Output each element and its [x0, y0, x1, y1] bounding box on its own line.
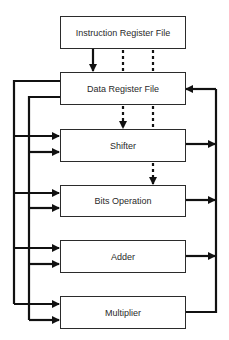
data-register-file-block: Data Register File: [60, 72, 186, 105]
architecture-diagram: Instruction Register File Data Register …: [0, 0, 229, 340]
instruction-register-file-block: Instruction Register File: [60, 16, 186, 49]
multiplier-block: Multiplier: [60, 296, 186, 329]
connector-lines: [0, 0, 229, 340]
shifter-block: Shifter: [60, 129, 186, 162]
bits-operation-block: Bits Operation: [60, 185, 186, 217]
adder-block: Adder: [60, 240, 186, 273]
